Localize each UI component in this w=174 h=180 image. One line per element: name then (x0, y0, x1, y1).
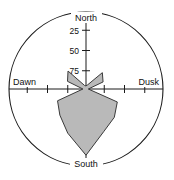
rose-diagram-chart: North South Dawn Dusk 25 50 75 (0, 0, 174, 180)
cardinal-label-north: North (75, 13, 97, 23)
radial-tick-label-75: 75 (70, 66, 80, 76)
cardinal-label-dawn: Dawn (13, 77, 36, 87)
cardinal-label-south: South (74, 159, 98, 169)
cardinal-label-dusk: Dusk (138, 77, 159, 87)
radial-tick-label-50: 50 (70, 46, 80, 56)
rose-data-polygon (58, 71, 118, 155)
rose-diagram-svg: North South Dawn Dusk 25 50 75 (0, 0, 174, 180)
radial-tick-label-25: 25 (70, 26, 80, 36)
